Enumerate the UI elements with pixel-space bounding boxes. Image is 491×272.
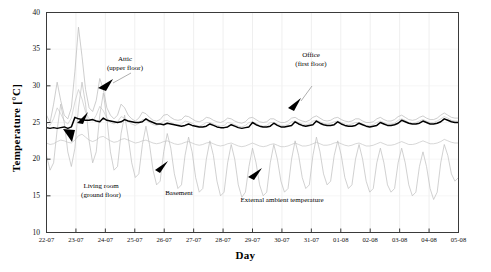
- y-tick-40: 40: [18, 8, 40, 17]
- annotation-arrows: [63, 73, 312, 180]
- annotation-living-room-line2: (ground floor): [57, 191, 145, 200]
- annotation-living-room: Living room (ground floor): [57, 182, 145, 199]
- y-tick-30: 30: [18, 81, 40, 90]
- annotation-attic: Attic (upper floor): [86, 55, 164, 72]
- y-tick-20: 20: [18, 154, 40, 163]
- y-tick-15: 15: [18, 191, 40, 200]
- annotation-basement: Basement: [146, 189, 212, 198]
- annotation-office-line1: Office: [275, 51, 347, 60]
- annotation-attic-line1: Attic: [86, 55, 164, 64]
- x-axis-title: Day: [0, 249, 491, 261]
- annotation-basement-line1: Basement: [146, 189, 212, 198]
- annotation-external-ambient-line1: External ambient temperature: [226, 196, 338, 205]
- y-tick-25: 25: [18, 118, 40, 127]
- x-tick-05-08: 05-08: [442, 236, 476, 243]
- annotation-office: Office (first floor): [275, 51, 347, 68]
- y-tick-35: 35: [18, 44, 40, 53]
- annotation-living-room-line1: Living room: [57, 182, 145, 191]
- annotation-external-ambient: External ambient temperature: [226, 196, 338, 205]
- annotation-attic-line2: (upper floor): [86, 64, 164, 73]
- annotation-office-line2: (first floor): [275, 60, 347, 69]
- temperature-chart: Temperature [°C] Day 10152025303540 22-0…: [0, 0, 491, 272]
- plot-svg: [0, 0, 491, 272]
